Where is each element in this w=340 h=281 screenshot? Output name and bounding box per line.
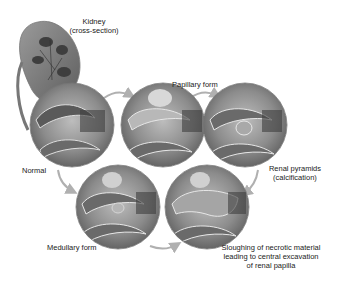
sloughing-label: Sloughing of necrotic material leading t… bbox=[216, 243, 326, 270]
normal-label: Normal bbox=[22, 166, 46, 175]
sloughing-line-1: Sloughing of necrotic material bbox=[216, 243, 326, 252]
stage-sloughing bbox=[165, 165, 249, 249]
sloughing-line-2: leading to central excavation bbox=[216, 252, 326, 261]
medullary-form-label: Medullary form bbox=[47, 243, 97, 252]
diagram-canvas bbox=[0, 0, 340, 281]
stage-normal bbox=[30, 83, 114, 167]
kidney-label: Kidney (cross-section) bbox=[68, 17, 120, 35]
normal-text: Normal bbox=[22, 166, 46, 175]
renal-pyramids-sub: (calcification) bbox=[262, 173, 328, 182]
stage-papillary-calcification bbox=[203, 83, 287, 167]
renal-pyramids-title: Renal pyramids bbox=[262, 164, 328, 173]
papillary-form-label: Papillary form bbox=[172, 80, 218, 89]
medullary-form-text: Medullary form bbox=[47, 243, 97, 252]
papillary-form-text: Papillary form bbox=[172, 80, 218, 89]
kidney-label-sub: (cross-section) bbox=[68, 26, 120, 35]
stage-papillary-early bbox=[121, 83, 205, 167]
kidney-label-title: Kidney bbox=[68, 17, 120, 26]
sloughing-line-3: of renal papilla bbox=[216, 261, 326, 270]
stage-medullary bbox=[76, 165, 160, 249]
renal-pyramids-label: Renal pyramids (calcification) bbox=[262, 164, 328, 182]
